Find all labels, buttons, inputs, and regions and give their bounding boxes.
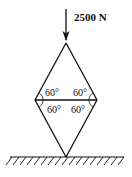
truss-diagram: 2500 N 60° 60° 60° 60° — [0, 0, 132, 177]
angle-bottom-left: 60° — [47, 104, 61, 115]
arc-top-left — [39, 93, 43, 100]
angle-top-right: 60° — [73, 87, 87, 98]
angle-bottom-right: 60° — [71, 104, 85, 115]
load-label: 2500 N — [74, 11, 107, 23]
angle-top-left: 60° — [45, 87, 59, 98]
load-arrow — [63, 9, 70, 41]
rhombus-members — [35, 43, 97, 157]
ground-support — [6, 157, 124, 165]
arc-bottom-right — [89, 100, 93, 107]
arc-bottom-left — [39, 100, 43, 107]
arc-top-right — [89, 93, 93, 100]
